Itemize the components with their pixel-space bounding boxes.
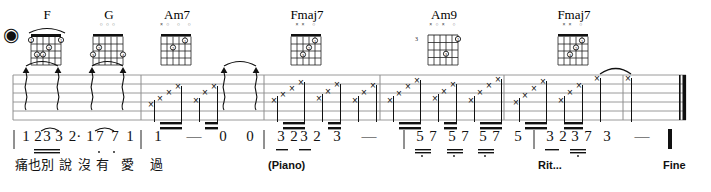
note-number: 5 [477,129,489,144]
lyric-syllable: 有 [95,158,109,172]
svg-text:×: × [576,80,582,91]
note-number: 7 [94,129,106,144]
svg-text:×: × [193,95,199,106]
svg-text:×: × [334,79,340,90]
lyric-syllable: 愛 [120,158,134,172]
svg-text:×: × [594,73,600,84]
lyric-syllable: 說 [58,158,72,172]
svg-text:×: × [352,95,358,106]
lyric-syllable: 別 [40,158,54,172]
svg-text:×: × [370,80,376,91]
note-number: 5 [414,129,426,144]
note-number: — [361,129,377,144]
lyric-syllable: 過 [149,158,163,172]
note-number: — [634,129,650,144]
note-number: 1 [152,129,164,144]
svg-text:×: × [211,81,217,92]
note-number: 7 [459,129,471,144]
fine-annotation: Fine [663,159,686,171]
svg-text:×: × [432,93,438,104]
svg-text:×: × [166,87,172,98]
note-number: 3 [569,129,581,144]
note-number: 2 [311,129,323,144]
rit-annotation: Rit... [538,159,562,171]
svg-text:×: × [513,97,519,108]
svg-text:×: × [289,83,295,94]
svg-text:×: × [625,73,631,84]
svg-text:×: × [280,89,286,100]
svg-text:×: × [325,86,331,97]
piano-annotation: (Piano) [268,159,305,171]
svg-text:×: × [486,80,492,91]
svg-text:×: × [441,86,447,97]
svg-text:×: × [531,83,537,94]
numbered-notation-row: 1 2 3 3 2· 1 7 7 1 1 — 0 0 3 2 3 2 3 — 5… [0,125,711,157]
svg-text:×: × [396,88,402,99]
note-number: 2 [557,129,569,144]
note-number: 3 [298,129,310,144]
note-number: 7 [490,129,502,144]
svg-text:×: × [522,90,528,101]
svg-text:×: × [405,81,411,92]
svg-text:×: × [202,87,208,98]
note-number: 3 [53,129,65,144]
lyrics-row: 痛 也 別 說 沒 有 愛 過 (Piano) Rit... Fine [0,158,711,182]
lyric-syllable: 痛 [14,158,28,172]
svg-text:×: × [175,81,181,92]
note-number: 0 [217,129,229,144]
svg-text:×: × [558,95,564,106]
note-number: 1 [124,129,136,144]
note-number: 5 [446,129,458,144]
svg-text:×: × [477,87,483,98]
svg-text:×: × [271,95,277,106]
note-number: 3 [275,129,287,144]
note-number: 3 [331,129,343,144]
final-barline [668,129,672,149]
svg-text:×: × [387,95,393,106]
svg-text:×: × [361,87,367,98]
svg-text:×: × [148,99,154,110]
note-number: 5 [512,129,524,144]
svg-text:×: × [468,95,474,106]
note-number: 2· [67,129,83,144]
sheet-music-page: F 1 1 2 [0,0,711,192]
note-number: 3 [544,129,556,144]
note-number: 7 [582,129,594,144]
svg-text:×: × [316,93,322,104]
lyric-syllable: 沒 [77,158,91,172]
svg-text:×: × [495,74,501,85]
svg-text:×: × [414,75,420,86]
svg-text:×: × [540,76,546,87]
svg-text:×: × [567,87,573,98]
note-number: 0 [244,129,256,144]
note-number: 7 [109,129,121,144]
note-number: 1 [20,129,32,144]
note-number: 7 [427,129,439,144]
note-number: — [186,129,202,144]
note-number: 3 [41,129,53,144]
svg-text:×: × [298,77,304,88]
svg-text:×: × [450,79,456,90]
lyric-syllable: 也 [27,158,41,172]
note-number: 3 [601,129,613,144]
svg-text:×: × [157,93,163,104]
